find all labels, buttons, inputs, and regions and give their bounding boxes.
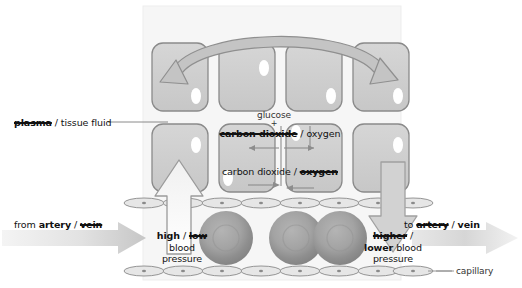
from-vessel-label: from artery / vein <box>14 219 102 231</box>
to-prefix-text: to <box>404 219 416 230</box>
right-lower-text: lower <box>364 242 393 253</box>
left-pressure-word: pressure <box>162 253 202 264</box>
left-blood-pressure-label: high / lowbloodpressure <box>146 230 218 265</box>
right-pressure-word: pressure <box>373 253 413 264</box>
upper-exchange-label: carbon dioxide / oxygen <box>218 128 342 140</box>
lower-exchange-label: carbon dioxide / oxygen <box>213 166 347 178</box>
plasma-separator: / <box>52 117 61 128</box>
right-pressure-separator: / <box>407 230 413 241</box>
diagram-canvas: plasma / tissue fluid glucose + carbon d… <box>0 0 522 288</box>
left-low-struck: low <box>189 230 207 241</box>
tissue-cell <box>219 43 275 111</box>
plus-sign-label: + <box>232 120 316 128</box>
upper-carbon-dioxide-struck: carbon dioxide <box>220 128 298 139</box>
cell-nucleus <box>326 88 336 104</box>
tissue-fluid-text: tissue fluid <box>61 117 112 128</box>
to-vessel-label: to artery / vein <box>404 219 480 231</box>
left-pressure-separator: / <box>180 230 189 241</box>
from-artery-text: artery <box>39 219 71 230</box>
right-blood-word: blood <box>393 242 422 253</box>
plasma-tissue-fluid-label: plasma / tissue fluid <box>14 117 111 129</box>
cell-nucleus <box>191 137 201 153</box>
capillary-label: capillary <box>456 266 493 278</box>
from-separator: / <box>71 219 80 230</box>
right-blood-pressure-label: higher /lower bloodpressure <box>352 230 434 265</box>
plasma-struck-text: plasma <box>14 117 52 128</box>
cell-nucleus <box>259 60 269 76</box>
cell-nucleus <box>191 88 201 104</box>
to-separator: / <box>449 219 458 230</box>
diagram-graphics <box>0 0 522 288</box>
blood-cells <box>199 211 367 265</box>
lower-oxygen-struck: oxygen <box>300 166 338 177</box>
from-vein-struck: vein <box>80 219 102 230</box>
left-high-text: high <box>157 230 180 241</box>
cell-nucleus <box>393 88 403 104</box>
left-blood-word: blood <box>169 242 195 253</box>
lower-carbon-dioxide-text: carbon dioxide <box>222 166 291 177</box>
upper-oxygen-text: oxygen <box>306 128 340 139</box>
right-higher-struck: higher <box>373 230 407 241</box>
to-vein-text: vein <box>458 219 480 230</box>
lower-separator: / <box>291 166 300 177</box>
tissue-cell <box>286 43 342 111</box>
cell-nucleus <box>393 137 403 153</box>
capillary-wall-bottom <box>124 266 452 276</box>
to-artery-struck: artery <box>416 219 448 230</box>
from-prefix-text: from <box>14 219 39 230</box>
